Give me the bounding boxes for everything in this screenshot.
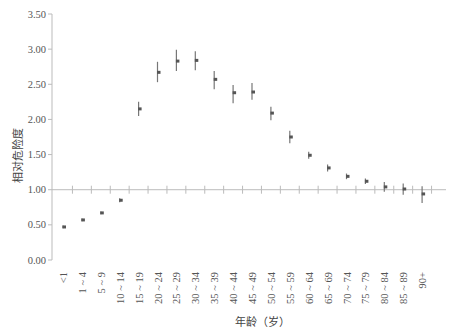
data-points (63, 50, 426, 229)
data-point (233, 85, 237, 103)
point-marker (327, 166, 331, 169)
x-tick-label: <1 (58, 272, 69, 283)
point-marker (214, 78, 218, 81)
data-point (365, 178, 369, 184)
y-tick-label: 2.00 (28, 114, 46, 125)
point-marker (346, 175, 350, 178)
point-marker (252, 91, 256, 94)
x-axis-title: 年龄（岁） (235, 315, 290, 329)
data-point (63, 225, 67, 228)
y-tick-label: 2.50 (28, 79, 46, 90)
data-point (252, 83, 256, 100)
y-axis-title: 相对危险度 (11, 128, 25, 183)
relative-risk-chart: 0.000.501.001.502.002.503.003.50 <11 ~ 4… (0, 0, 456, 333)
point-marker (308, 154, 312, 157)
point-marker (81, 218, 85, 221)
data-point (327, 164, 331, 171)
point-marker (138, 107, 142, 110)
data-point (270, 107, 274, 120)
y-tick-label: 1.50 (28, 149, 46, 160)
point-marker (233, 91, 237, 94)
data-point (119, 198, 123, 202)
x-tick-label: 1 ~ 4 (77, 271, 88, 293)
data-point (308, 152, 312, 159)
y-tick-label: 1.00 (28, 184, 46, 195)
x-tick-label: 25 ~ 29 (171, 272, 182, 304)
data-point (214, 71, 218, 89)
y-tick-label: 0.50 (28, 219, 46, 230)
data-point (100, 211, 104, 214)
data-point (176, 50, 180, 71)
x-tick-label: 30 ~ 34 (190, 271, 201, 304)
point-marker (63, 225, 67, 228)
point-marker (176, 60, 180, 63)
x-tick-label: 75 ~ 79 (360, 272, 371, 304)
x-tick-label: 90+ (417, 272, 428, 289)
x-tick-label: 5 ~ 9 (96, 272, 107, 293)
x-tick-label: 55 ~ 59 (285, 272, 296, 304)
point-marker (403, 188, 407, 191)
data-point (157, 62, 161, 82)
point-marker (384, 185, 388, 188)
x-axis-tick-labels: <11 ~ 45 ~ 910 ~ 1415 ~ 1920 ~ 2425 ~ 29… (58, 271, 428, 304)
x-tick-label: 85 ~ 89 (398, 272, 409, 304)
x-tick-label: 40 ~ 44 (228, 271, 239, 304)
data-point (195, 51, 199, 70)
data-point (289, 131, 293, 144)
x-tick-label: 60 ~ 64 (304, 271, 315, 304)
point-marker (195, 59, 199, 62)
y-axis: 0.000.501.001.502.002.503.003.50 (28, 9, 52, 266)
data-point (81, 218, 85, 221)
point-marker (422, 192, 426, 195)
x-tick-label: 15 ~ 19 (134, 272, 145, 304)
point-marker (100, 211, 104, 214)
y-tick-label: 3.00 (28, 44, 46, 55)
y-tick-label: 0.00 (28, 255, 46, 266)
x-tick-label: 35 ~ 39 (209, 272, 220, 304)
x-tick-label: 70 ~ 74 (342, 271, 353, 304)
y-tick-label: 3.50 (28, 9, 46, 20)
x-tick-label: 45 ~ 49 (247, 272, 258, 304)
x-tick-label: 10 ~ 14 (115, 271, 126, 304)
point-marker (119, 199, 123, 202)
data-point (384, 182, 388, 192)
x-tick-label: 65 ~ 69 (323, 272, 334, 304)
x-tick-label: 50 ~ 54 (266, 271, 277, 304)
data-point (138, 102, 142, 116)
x-tick-label: 20 ~ 24 (153, 271, 164, 304)
x-tick-label: 80 ~ 84 (379, 271, 390, 304)
data-point (422, 186, 426, 203)
point-marker (365, 180, 369, 183)
data-point (403, 183, 407, 194)
data-point (346, 174, 350, 180)
point-marker (270, 112, 274, 115)
point-marker (289, 136, 293, 139)
point-marker (157, 71, 161, 74)
